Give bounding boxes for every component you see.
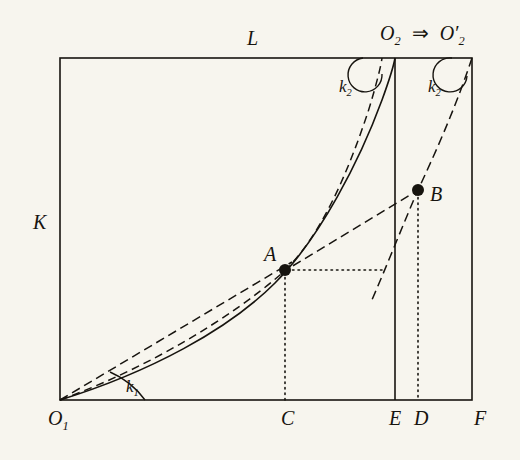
point-A-marker <box>279 264 291 276</box>
angle-label-k1: k1 <box>126 378 139 399</box>
dashed-ray-origin2prime-through-B <box>371 58 472 302</box>
origin2-prime-label: O′2 <box>440 22 465 44</box>
dashed-ray-A-to-B <box>281 189 420 273</box>
solid-isoquant-curve <box>60 58 395 400</box>
baseline-tick-label-C: C <box>281 408 294 428</box>
shift-arrow-icon: ⇒ <box>406 22 440 44</box>
origin2-label: O2 <box>380 22 406 44</box>
point-label-A: A <box>264 244 276 264</box>
baseline-tick-label-D: D <box>414 408 428 428</box>
point-B-marker <box>412 184 424 196</box>
axis-label-L: L <box>247 28 258 48</box>
isoquant-diagram <box>0 0 520 460</box>
point-label-B: B <box>430 184 442 204</box>
origin1-label: O1 <box>48 408 69 432</box>
dashed-ray-origin1-to-A <box>60 262 292 400</box>
angle-label-k2-left: k2 <box>339 78 352 99</box>
angle-arc-k2-left <box>348 58 382 92</box>
edgeworth-box-border <box>60 58 472 400</box>
baseline-tick-label-E: E <box>389 408 401 428</box>
origin2-shift-group: O2 ⇒ O′2 <box>380 22 465 47</box>
baseline-tick-label-F: F <box>474 408 486 428</box>
angle-label-k2-right: k2 <box>428 78 441 99</box>
axis-label-K: K <box>33 212 46 232</box>
dashed-isoquant-curve <box>60 58 382 400</box>
